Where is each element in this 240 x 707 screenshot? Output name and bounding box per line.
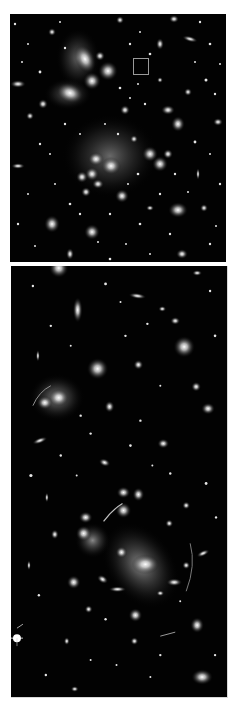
top-panel-description: Wide-field view of galaxy cluster: [0, 0, 1, 1]
image-panel-top: [10, 14, 226, 262]
galaxy-field-top: [10, 14, 226, 262]
image-panel-bottom: [11, 266, 228, 698]
highlight-box-marker: [133, 58, 149, 75]
bright-star: [11, 624, 23, 646]
figure-description: Wide-field view of galaxy cluster Zoomed…: [0, 0, 1, 1]
galaxy-field-bottom: [11, 266, 227, 697]
